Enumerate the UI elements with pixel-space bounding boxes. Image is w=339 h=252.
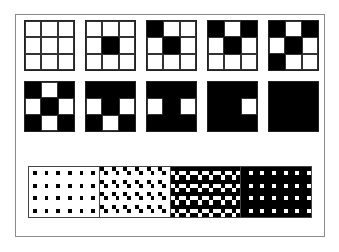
dither-grid-level-6 [85,81,136,132]
texture-section-level-8 [241,167,311,217]
dither-cell [147,115,163,131]
dither-cell [86,98,102,114]
dither-cell [163,54,179,70]
dither-cell [224,21,240,37]
dither-grid-level-0 [24,20,75,71]
dither-cell [102,115,118,131]
dither-cell [58,115,74,131]
dither-grid-level-5 [24,81,75,132]
dither-cell [163,21,179,37]
dither-cell [241,115,257,131]
dither-cell [147,21,163,37]
dither-cell [102,98,118,114]
dither-cell [208,21,224,37]
dither-cell [285,82,301,98]
dither-cell [119,98,135,114]
dither-cell [269,82,285,98]
dither-cell [58,37,74,53]
dither-cell [25,37,41,53]
dither-cell [269,115,285,131]
dither-cell [180,115,196,131]
dither-grid-level-2 [146,20,197,71]
dither-cell [241,21,257,37]
dither-cell [241,54,257,70]
dither-cell [102,37,118,53]
texture-section-level-2 [100,167,171,217]
dither-cell [208,82,224,98]
dither-cell [86,115,102,131]
dither-cell [41,21,57,37]
dither-grid-level-4 [268,20,319,71]
dither-cell [163,37,179,53]
dither-cell [147,54,163,70]
dither-grid-level-3 [207,20,258,71]
dither-cell [302,54,318,70]
dither-cell [208,37,224,53]
dither-cell [41,115,57,131]
dither-cell [25,21,41,37]
dither-cell [41,54,57,70]
dither-cell [241,98,257,114]
dither-cell [41,82,57,98]
dither-cell [58,82,74,98]
dither-cell [180,37,196,53]
dither-cell [41,37,57,53]
dither-cell [102,54,118,70]
dither-cell [241,82,257,98]
dither-cell [302,37,318,53]
dither-cell [25,82,41,98]
dither-cell [25,54,41,70]
dither-cell [224,82,240,98]
dither-cell [86,21,102,37]
dither-cell [119,37,135,53]
dither-cell [285,98,301,114]
dither-cell [180,54,196,70]
dither-grid-level-8 [207,81,258,132]
dither-cell [285,54,301,70]
dither-cell [119,54,135,70]
dither-cell [285,115,301,131]
dither-cell [25,115,41,131]
dither-cell [180,82,196,98]
dither-cell [86,54,102,70]
dither-cell [208,98,224,114]
dither-cell [58,54,74,70]
dither-cell [285,21,301,37]
dither-cell [119,115,135,131]
dither-cell [302,115,318,131]
dither-cell [25,98,41,114]
dither-cell [147,37,163,53]
dither-cell [58,21,74,37]
dither-cell [180,21,196,37]
dither-grid-level-1 [85,20,136,71]
dither-cell [86,37,102,53]
dither-cell [224,98,240,114]
dither-cell [147,82,163,98]
dither-cell [86,82,102,98]
texture-section-level-1 [29,167,100,217]
dither-cell [58,98,74,114]
dither-texture-strip [28,166,312,218]
dither-cell [147,98,163,114]
dither-cell [269,21,285,37]
dither-cell [163,82,179,98]
texture-section-level-6 [171,167,242,217]
dither-cell [208,54,224,70]
dither-cell [302,98,318,114]
dither-cell [119,82,135,98]
dither-cell [269,54,285,70]
dither-cell [163,115,179,131]
dither-cell [208,115,224,131]
dither-cell [102,21,118,37]
dither-cell [224,54,240,70]
dither-cell [163,98,179,114]
dither-grid-level-7 [146,81,197,132]
dither-cell [102,82,118,98]
dither-cell [269,98,285,114]
dither-cell [119,21,135,37]
dither-cell [241,37,257,53]
dither-cell [224,115,240,131]
dither-grid-level-9 [268,81,319,132]
dither-cell [285,37,301,53]
dither-cell [180,98,196,114]
